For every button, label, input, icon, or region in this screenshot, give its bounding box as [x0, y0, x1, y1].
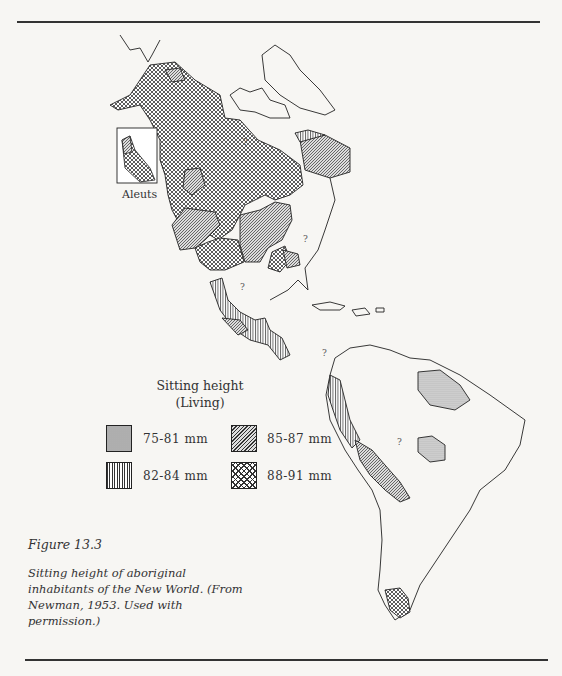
bottom-rule	[25, 659, 548, 661]
puerto-rico	[376, 308, 384, 312]
greenland	[262, 45, 335, 115]
arctic-islands	[230, 88, 290, 118]
unknown-marker: ?	[240, 282, 245, 292]
region-85-87-andes	[355, 440, 410, 502]
figure-caption: Sitting height of aboriginal inhabitants…	[28, 565, 248, 629]
unknown-marker: ?	[243, 137, 248, 147]
legend-subtitle: (Living)	[100, 395, 300, 410]
legend-label: 85-87 mm	[267, 432, 332, 446]
figure-label: Figure 13.3	[28, 537, 102, 552]
legend-label: 82-84 mm	[143, 469, 208, 483]
region-82-84-andes	[328, 375, 360, 448]
region-88-91-southwest	[195, 238, 244, 270]
hispaniola	[352, 308, 370, 316]
cuba	[312, 302, 345, 310]
legend-title: Sitting height	[100, 378, 300, 393]
region-88-91-patagonia	[385, 588, 410, 618]
legend-swatch-fine-dot	[106, 425, 132, 452]
inset-label: Aleuts	[122, 188, 157, 201]
unknown-marker: ?	[397, 437, 402, 447]
region-85-87-labrador	[300, 135, 350, 178]
unknown-marker: ?	[322, 348, 327, 358]
unknown-marker: ?	[303, 234, 308, 244]
legend-swatch-vertical-lines	[106, 462, 132, 489]
legend-label: 88-91 mm	[267, 469, 332, 483]
region-82-84-mexico	[210, 278, 290, 360]
legend-label: 75-81 mm	[143, 432, 208, 446]
legend-swatch-crosshatch	[231, 462, 257, 489]
region-75-81-brazil	[418, 436, 445, 462]
siberia-coast	[120, 35, 160, 62]
legend-swatch-diagonal-lines	[231, 425, 257, 452]
